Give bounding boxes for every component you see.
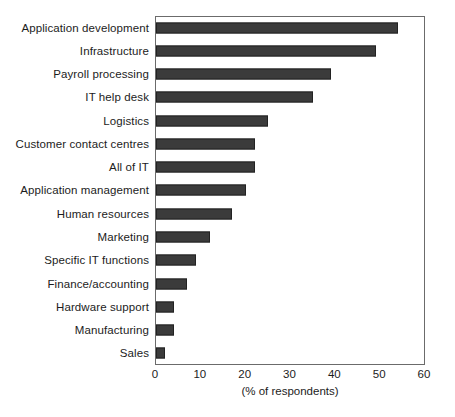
bar — [156, 115, 268, 126]
x-tick-label: 60 — [418, 368, 431, 380]
bar-chart: Application developmentInfrastructurePay… — [0, 0, 455, 417]
category-label: Logistics — [103, 114, 149, 127]
bar-row: Manufacturing — [0, 318, 455, 341]
bar — [156, 325, 174, 336]
x-tick-label: 40 — [328, 368, 341, 380]
category-label: Hardware support — [56, 300, 149, 313]
bar-row: Sales — [0, 342, 455, 365]
category-label: Finance/accounting — [47, 277, 149, 290]
bar-row: Logistics — [0, 109, 455, 132]
bar-row: All of IT — [0, 156, 455, 179]
x-tick-label: 30 — [283, 368, 296, 380]
category-label: Application management — [20, 184, 149, 197]
category-label: IT help desk — [85, 91, 149, 104]
x-axis-title: (% of respondents) — [155, 385, 425, 397]
bar-row: IT help desk — [0, 86, 455, 109]
bar-row: Marketing — [0, 225, 455, 248]
category-label: Manufacturing — [75, 324, 149, 337]
bar — [156, 348, 165, 359]
bar — [156, 185, 246, 196]
x-tick-label: 10 — [193, 368, 206, 380]
bar-row: Customer contact centres — [0, 132, 455, 155]
x-tick-label: 20 — [238, 368, 251, 380]
bar — [156, 232, 210, 243]
category-label: Infrastructure — [80, 44, 149, 57]
bar-row: Application development — [0, 16, 455, 39]
category-label: All of IT — [109, 161, 149, 174]
bar — [156, 45, 376, 56]
bar-row: Human resources — [0, 202, 455, 225]
category-label: Specific IT functions — [44, 254, 149, 267]
category-label: Application development — [21, 21, 149, 34]
bar-rows: Application developmentInfrastructurePay… — [0, 16, 455, 365]
bar — [156, 22, 398, 33]
bar — [156, 301, 174, 312]
bar — [156, 278, 187, 289]
x-axis: 0102030405060 — [155, 365, 425, 385]
bar — [156, 208, 232, 219]
x-tick-label: 0 — [152, 368, 158, 380]
bar — [156, 255, 196, 266]
bar-row: Hardware support — [0, 295, 455, 318]
bar — [156, 69, 331, 80]
bar — [156, 162, 255, 173]
category-label: Marketing — [98, 231, 149, 244]
category-label: Customer contact centres — [16, 137, 149, 150]
bar — [156, 92, 313, 103]
bar — [156, 138, 255, 149]
category-label: Payroll processing — [53, 68, 149, 81]
bar-row: Infrastructure — [0, 39, 455, 62]
bar-row: Finance/accounting — [0, 272, 455, 295]
x-tick-label: 50 — [373, 368, 386, 380]
bar-row: Specific IT functions — [0, 249, 455, 272]
category-label: Sales — [120, 347, 149, 360]
category-label: Human resources — [57, 207, 149, 220]
bar-row: Application management — [0, 179, 455, 202]
bar-row: Payroll processing — [0, 63, 455, 86]
